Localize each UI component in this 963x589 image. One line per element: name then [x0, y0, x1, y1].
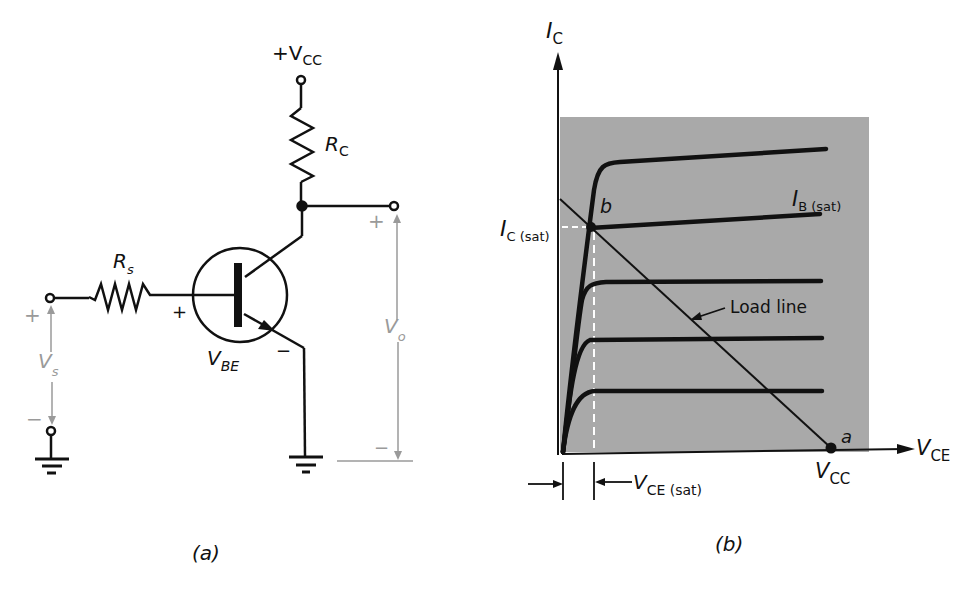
vo-terminal — [390, 202, 398, 210]
point-a-label: a — [841, 426, 852, 447]
transistor-base-bar — [234, 263, 242, 327]
point-b-label: b — [600, 195, 612, 217]
ground-icon — [289, 457, 323, 472]
voltage-arrows — [47, 214, 413, 461]
svg-text:VBE: VBE — [207, 346, 239, 374]
rc-label: R — [325, 132, 339, 156]
svg-text:Rs: Rs — [113, 249, 134, 277]
vo-minus: − — [374, 437, 389, 458]
circuit-diagram — [35, 76, 398, 473]
svg-text:IC (sat): IC (sat) — [500, 216, 550, 244]
point-a — [826, 443, 837, 454]
circuit-labels: +VCC RC Rs + − VBE + Vs − + Vo − (a) — [24, 41, 406, 565]
svg-text:VCE: VCE — [916, 436, 950, 465]
figure-canvas: +VCC RC Rs + − VBE + Vs − + Vo − (a) — [0, 0, 963, 589]
vbe-plus: + — [172, 301, 187, 322]
caption-a: (a) — [192, 541, 220, 565]
ground-icon — [35, 459, 69, 473]
x-axis-arrow — [897, 444, 915, 454]
vcc-terminal — [297, 76, 305, 84]
svg-text:IC: IC — [546, 18, 563, 48]
characteristic-plot: IC IC (sat) b IB (sat) Load line a VCE V… — [500, 18, 950, 556]
svg-text:Vo: Vo — [384, 314, 406, 344]
emitter-arrow — [258, 320, 275, 331]
vo-plus: + — [368, 209, 385, 233]
vcc-plus-label: +VCC — [272, 41, 322, 68]
svg-text:VCE (sat): VCE (sat) — [633, 470, 702, 498]
svg-text:VCC: VCC — [815, 459, 850, 488]
vs-plus: + — [24, 303, 41, 327]
vs-terminal-top — [46, 294, 54, 302]
vce-sat-dimension — [528, 462, 632, 500]
rs-resistor — [89, 284, 152, 310]
rs-label: R — [113, 249, 127, 273]
svg-text:Vs: Vs — [38, 349, 59, 379]
vbe-minus: − — [276, 340, 291, 361]
vs-minus: − — [26, 407, 43, 431]
load-line-label: Load line — [730, 297, 807, 317]
y-axis-arrow — [553, 52, 563, 70]
point-b — [586, 222, 596, 232]
vs-terminal-bottom — [47, 427, 55, 435]
caption-b: (b) — [715, 532, 743, 556]
rc-resistor — [291, 108, 313, 182]
svg-text:RC: RC — [325, 132, 349, 159]
